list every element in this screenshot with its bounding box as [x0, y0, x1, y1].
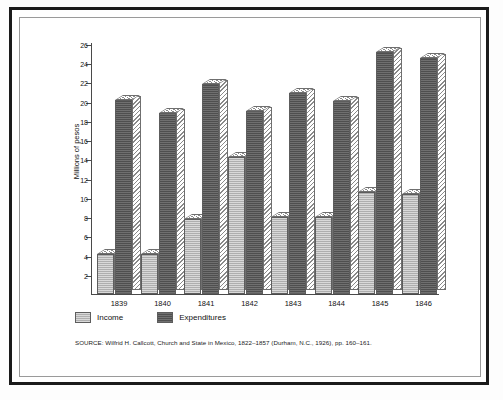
- legend-item-expenditures[interactable]: Expenditures: [157, 312, 226, 323]
- bar-face: [202, 84, 219, 294]
- bar-group: 1840: [135, 43, 179, 294]
- legend-label: Expenditures: [179, 313, 226, 322]
- bar-income-1840: [141, 254, 158, 294]
- bar-face: [228, 157, 245, 294]
- bar-income-1843: [271, 217, 288, 294]
- y-axis-title: Millions of pesos: [72, 124, 81, 179]
- figure-page: Millions of pesos 2468101214161820222426…: [0, 0, 503, 400]
- y-tick-label: 6: [84, 234, 88, 241]
- bar-income-1839: [97, 254, 114, 294]
- bar-group: 1844: [309, 43, 353, 294]
- bar-face: [420, 58, 437, 294]
- bar-face: [115, 100, 132, 294]
- bar-side: [437, 54, 446, 290]
- income-swatch: [75, 312, 91, 323]
- bar-face: [271, 217, 288, 294]
- bar-income-1842: [228, 157, 245, 294]
- plot-area: 2468101214161820222426 18391840184118421…: [91, 43, 439, 295]
- bar-expenditures-1846: [420, 58, 437, 294]
- bar-group: 1845: [352, 43, 396, 294]
- expenditures-swatch: [157, 312, 173, 323]
- bar-face: [289, 93, 306, 294]
- bar-face: [97, 254, 114, 294]
- source-note: SOURCE: Wilfrid H. Callcott, Church and …: [75, 339, 465, 347]
- y-tick-label: 22: [80, 80, 88, 87]
- bar-income-1846: [402, 194, 419, 294]
- bar-face: [333, 101, 350, 294]
- legend-label: Income: [97, 313, 123, 322]
- bar-expenditures-1841: [202, 84, 219, 294]
- bar-face: [159, 113, 176, 294]
- y-tick-label: 10: [80, 195, 88, 202]
- bar-face: [358, 192, 375, 294]
- y-tick-label: 26: [80, 42, 88, 49]
- y-tick-label: 12: [80, 176, 88, 183]
- bar-expenditures-1842: [246, 111, 263, 294]
- chart-legend: IncomeExpenditures: [75, 312, 226, 323]
- x-axis-label-1846: 1846: [396, 299, 452, 308]
- y-tick-label: 18: [80, 118, 88, 125]
- bar-group: 1843: [265, 43, 309, 294]
- bar-expenditures-1843: [289, 93, 306, 294]
- y-tick-label: 14: [80, 157, 88, 164]
- bar-income-1844: [315, 217, 332, 294]
- y-tick-label: 20: [80, 99, 88, 106]
- bar-group: 1846: [396, 43, 440, 294]
- bar-expenditures-1844: [333, 101, 350, 294]
- y-tick-label: 24: [80, 61, 88, 68]
- legend-item-income[interactable]: Income: [75, 312, 123, 323]
- y-tick-label: 16: [80, 138, 88, 145]
- x-axis-line: [91, 294, 439, 295]
- y-tick-label: 2: [84, 272, 88, 279]
- y-tick-label: 8: [84, 215, 88, 222]
- chart-figure: Millions of pesos 2468101214161820222426…: [19, 17, 481, 377]
- bar-face: [315, 217, 332, 294]
- bar-expenditures-1845: [376, 52, 393, 294]
- bar-expenditures-1840: [159, 113, 176, 294]
- bar-income-1845: [358, 192, 375, 294]
- bar-face: [402, 194, 419, 294]
- bar-face: [376, 52, 393, 294]
- y-tick-label: 4: [84, 253, 88, 260]
- bar-group: 1842: [222, 43, 266, 294]
- bar-face: [141, 254, 158, 294]
- bar-face: [246, 111, 263, 294]
- bar-face: [184, 219, 201, 294]
- bar-group: 1841: [178, 43, 222, 294]
- bar-income-1841: [184, 219, 201, 294]
- bar-expenditures-1839: [115, 100, 132, 294]
- bar-group: 1839: [91, 43, 135, 294]
